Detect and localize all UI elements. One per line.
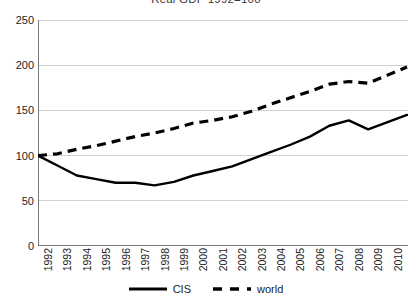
x-axis-tick-label: 1997 (139, 248, 151, 271)
x-axis-tick-label: 2004 (275, 248, 287, 271)
x-axis-tick-labels: 1992199319941995199619971998199920002001… (38, 248, 408, 286)
x-axis-tick-label: 1996 (120, 248, 132, 271)
legend-label: world (257, 283, 283, 295)
x-axis-tick-label: 1994 (81, 248, 93, 271)
y-axis-tick-label: 100 (4, 150, 34, 162)
chart-title: Real GDP 1992=100 (0, 0, 412, 5)
solid-line-icon (129, 285, 167, 293)
x-axis-tick-label: 1998 (159, 248, 171, 271)
legend-label: CIS (173, 283, 191, 295)
x-axis-tick-label: 1992 (42, 248, 54, 271)
y-axis-tick-labels: 050100150200250 (0, 20, 34, 246)
x-axis-tick-label: 1999 (178, 248, 190, 271)
x-axis-tick-label: 2010 (392, 248, 404, 271)
plot-svg (38, 20, 408, 246)
y-axis-tick-label: 250 (4, 14, 34, 26)
series-line-world (38, 67, 407, 156)
y-axis-tick-label: 150 (4, 104, 34, 116)
x-axis-tick-label: 2008 (353, 248, 365, 271)
dashed-line-icon (213, 285, 251, 293)
x-axis-tick-label: 2001 (217, 248, 229, 271)
y-axis-tick-label: 50 (4, 195, 34, 207)
y-axis-tick-label: 0 (4, 240, 34, 252)
x-axis-tick-label: 1995 (100, 248, 112, 271)
x-axis-tick-label: 2002 (236, 248, 248, 271)
x-axis-tick-label: 1993 (61, 248, 73, 271)
plot-area (38, 20, 408, 246)
x-axis-tick-label: 2005 (294, 248, 306, 271)
x-axis-tick-label: 2000 (197, 248, 209, 271)
x-axis-tick-label: 2007 (333, 248, 345, 271)
series-line-cis (38, 115, 407, 186)
x-axis-tick-label: 2003 (256, 248, 268, 271)
legend-entry-cis[interactable]: CIS (129, 283, 191, 295)
x-axis-tick-label: 2009 (372, 248, 384, 271)
chart-legend: CISworld (0, 282, 412, 296)
y-axis-tick-label: 200 (4, 59, 34, 71)
chart-container: Real GDP 1992=100 050100150200250 199219… (0, 0, 412, 296)
legend-entry-world[interactable]: world (213, 283, 283, 295)
x-axis-tick-label: 2006 (314, 248, 326, 271)
